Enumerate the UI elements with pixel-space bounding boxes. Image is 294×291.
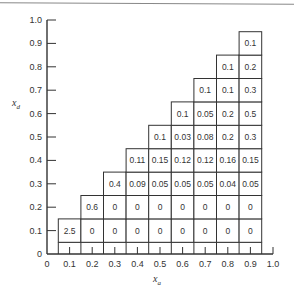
x-tick-label: 0.9 bbox=[244, 259, 257, 269]
cell-value: 0.2 bbox=[222, 132, 234, 142]
cell-value: 0 bbox=[158, 202, 163, 212]
cell-value: 0.1 bbox=[222, 62, 234, 72]
cell-value: 0.1 bbox=[177, 109, 189, 119]
x-tick-label: 0.8 bbox=[222, 259, 235, 269]
cell-value: 0 bbox=[203, 226, 208, 236]
x-axis-label: xa bbox=[152, 273, 161, 287]
cell-value: 0.1 bbox=[244, 38, 256, 48]
cell-value: 0.1 bbox=[154, 132, 166, 142]
cell-value: 0 bbox=[180, 226, 185, 236]
y-tick-label: 0 bbox=[37, 249, 42, 259]
cell-value: 0.05 bbox=[242, 179, 259, 189]
cell-value: 0 bbox=[112, 226, 117, 236]
cell-value: 0 bbox=[90, 226, 95, 236]
cell-value: 0.16 bbox=[220, 155, 237, 165]
cell-value: 0.03 bbox=[174, 132, 191, 142]
cell-value: 0 bbox=[112, 202, 117, 212]
cell-value: 0.5 bbox=[244, 109, 256, 119]
x-tick-label: 0.3 bbox=[109, 259, 122, 269]
x-tick-label: 0 bbox=[44, 259, 49, 269]
x-tick-label: 1.0 bbox=[267, 259, 280, 269]
cell-value: 0 bbox=[180, 202, 185, 212]
triangular-value-grid-chart: 00.10.20.30.40.50.60.70.80.91.000.10.20.… bbox=[0, 0, 294, 291]
cell-value: 0.6 bbox=[86, 202, 98, 212]
cell-value: 2.5 bbox=[64, 226, 76, 236]
x-tick-label: 0.1 bbox=[63, 259, 76, 269]
cell-value: 0.12 bbox=[197, 155, 214, 165]
cell-value: 0 bbox=[203, 202, 208, 212]
x-tick-label: 0.5 bbox=[154, 259, 167, 269]
y-tick-label: 0.8 bbox=[29, 62, 42, 72]
cell-value: 0 bbox=[135, 202, 140, 212]
value-grid: 2.5000000000.600000000.40.090.050.050.05… bbox=[58, 32, 261, 254]
y-tick-label: 0.7 bbox=[29, 85, 42, 95]
cell-value: 0.05 bbox=[174, 179, 191, 189]
cell-value: 0 bbox=[225, 202, 230, 212]
y-tick-label: 0.2 bbox=[29, 202, 42, 212]
y-tick-label: 0.3 bbox=[29, 179, 42, 189]
cell-value: 0 bbox=[248, 226, 253, 236]
y-tick-label: 0.5 bbox=[29, 132, 42, 142]
x-tick-label: 0.4 bbox=[131, 259, 144, 269]
cell-value: 0.05 bbox=[152, 179, 169, 189]
cell-value: 0.05 bbox=[197, 179, 214, 189]
cell-value: 0.1 bbox=[199, 85, 211, 95]
cell-value: 0 bbox=[248, 202, 253, 212]
cell-value: 0.1 bbox=[222, 85, 234, 95]
cell-value: 0.12 bbox=[174, 155, 191, 165]
cell-value: 0.15 bbox=[242, 155, 259, 165]
cell-value: 0.11 bbox=[129, 155, 145, 165]
y-tick-label: 0.6 bbox=[29, 109, 42, 119]
cell-value: 0.3 bbox=[244, 85, 256, 95]
cell-value: 0.2 bbox=[222, 109, 234, 119]
cell-value: 0.3 bbox=[244, 132, 256, 142]
y-axis-label: xd bbox=[11, 97, 20, 111]
cell-value: 0.4 bbox=[109, 179, 121, 189]
y-tick-label: 0.9 bbox=[29, 38, 42, 48]
cell-value: 0.15 bbox=[152, 155, 169, 165]
cell-value: 0 bbox=[158, 226, 163, 236]
x-tick-label: 0.2 bbox=[86, 259, 99, 269]
cell-value: 0.2 bbox=[244, 62, 256, 72]
y-tick-label: 0.1 bbox=[29, 226, 42, 236]
cell-value: 0.08 bbox=[197, 132, 214, 142]
cell-value: 0.05 bbox=[197, 109, 214, 119]
x-tick-label: 0.7 bbox=[199, 259, 212, 269]
cell-value: 0.09 bbox=[129, 179, 146, 189]
y-tick-label: 1.0 bbox=[29, 15, 42, 25]
cell-value: 0.04 bbox=[220, 179, 237, 189]
y-tick-label: 0.4 bbox=[29, 155, 42, 165]
x-tick-label: 0.6 bbox=[176, 259, 189, 269]
cell-value: 0 bbox=[135, 226, 140, 236]
cell-value: 0 bbox=[225, 226, 230, 236]
